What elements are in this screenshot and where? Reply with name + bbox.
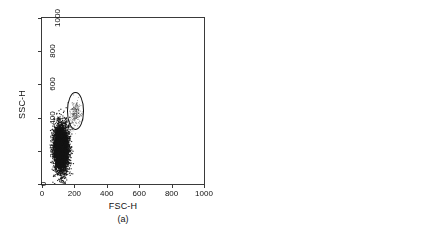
scatter-points-a (42, 18, 204, 184)
x-axis-label-a: FSC-H (109, 201, 138, 211)
y-tick-label: 600 (48, 78, 57, 91)
x-tick-mark (74, 185, 75, 188)
x-tick-label: 0 (40, 189, 44, 198)
gate-region-a[interactable] (67, 92, 84, 129)
y-tick-mark (38, 51, 41, 52)
panel-caption-a: (a) (118, 214, 129, 224)
x-tick-label: 800 (165, 189, 178, 198)
x-tick-label: 200 (68, 189, 81, 198)
x-tick-mark (107, 185, 108, 188)
x-tick-label: 400 (100, 189, 113, 198)
y-tick-label: 0 (39, 182, 48, 186)
y-axis-label-a: SSC-H (17, 90, 27, 119)
y-tick-label: 800 (48, 45, 57, 58)
y-tick-label: 400 (48, 111, 57, 124)
scatter-panel-b: FL2-H FL1-H (b) 100101102103104100101102… (221, 0, 442, 240)
plot-area-a (41, 17, 205, 185)
y-tick-mark (38, 118, 41, 119)
y-tick-mark (38, 84, 41, 85)
y-tick-label: 200 (48, 144, 57, 157)
x-tick-label: 1000 (195, 189, 213, 198)
x-tick-mark (172, 185, 173, 188)
x-tick-mark (204, 185, 205, 188)
flow-cytometry-figure: SSC-H FSC-H (a) 020040060080010000200400… (0, 0, 442, 240)
y-tick-label: 1000 (53, 9, 62, 27)
y-tick-mark (38, 18, 41, 19)
x-tick-label: 600 (133, 189, 146, 198)
y-tick-mark (38, 151, 41, 152)
scatter-panel-a: SSC-H FSC-H (a) 020040060080010000200400… (0, 0, 221, 240)
x-tick-mark (139, 185, 140, 188)
